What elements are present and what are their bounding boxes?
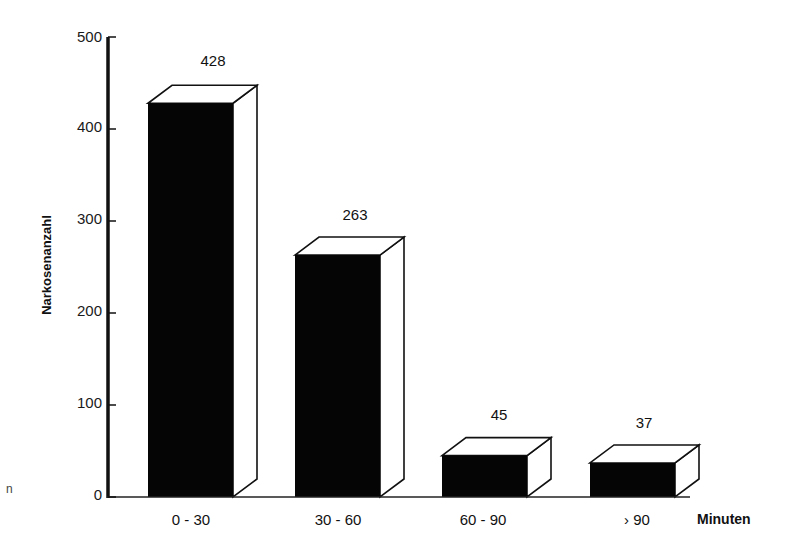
x-category-60-90: 60 - 90 [433,511,533,528]
stray-mark: n [6,482,13,496]
x-category-0-30: 0 - 30 [141,511,241,528]
value-label-bar-3: 45 [469,406,529,423]
y-tick-label-500: 500 [62,28,102,45]
x-category-gt-90: › 90 [587,511,687,528]
value-label-bar-1: 428 [183,52,243,69]
y-tick-label-300: 300 [62,210,102,227]
bar-chart [0,0,796,554]
bar-1 [148,85,257,497]
value-label-bar-4: 37 [614,414,674,431]
value-label-bar-2: 263 [325,206,385,223]
bar-2 [295,237,404,497]
y-axis-title: Narkosenanzahl [39,215,54,315]
y-tick-label-200: 200 [62,302,102,319]
x-axis-unit-label: Minuten [697,511,751,527]
bar-3 [442,438,551,497]
y-tick-label-100: 100 [62,394,102,411]
bar-4 [590,445,699,497]
bars-group [148,85,699,497]
y-tick-label-400: 400 [62,118,102,135]
x-category-30-60: 30 - 60 [288,511,388,528]
y-tick-label-0: 0 [62,486,102,503]
